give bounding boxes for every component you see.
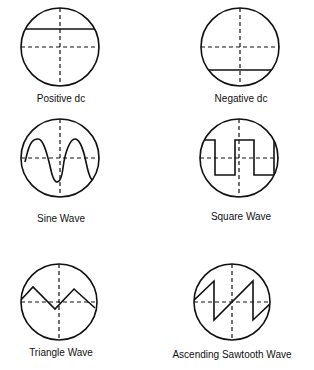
triangle-wave-scope: Triangle Wave bbox=[20, 264, 97, 358]
negative-dc-scope: Negative dc bbox=[200, 8, 280, 104]
sawtooth-wave-label: Ascending Sawtooth Wave bbox=[172, 349, 292, 360]
square-wave-scope: Square Wave bbox=[200, 119, 280, 222]
square-wave-label: Square Wave bbox=[211, 211, 272, 222]
sine-wave-label: Sine Wave bbox=[37, 213, 85, 224]
sawtooth-wave-scope: Ascending Sawtooth Wave bbox=[172, 264, 292, 360]
positive-dc-label: Positive dc bbox=[37, 93, 85, 104]
triangle-trace bbox=[20, 287, 95, 309]
negative-dc-label: Negative dc bbox=[215, 93, 268, 104]
sine-wave-scope: Sine Wave bbox=[21, 119, 99, 224]
waveform-diagram-sheet: Positive dc Negative dc Sine Wave Square… bbox=[0, 0, 314, 370]
sine-trace bbox=[25, 139, 92, 182]
triangle-wave-label: Triangle Wave bbox=[29, 347, 93, 358]
positive-dc-scope: Positive dc bbox=[20, 8, 100, 104]
